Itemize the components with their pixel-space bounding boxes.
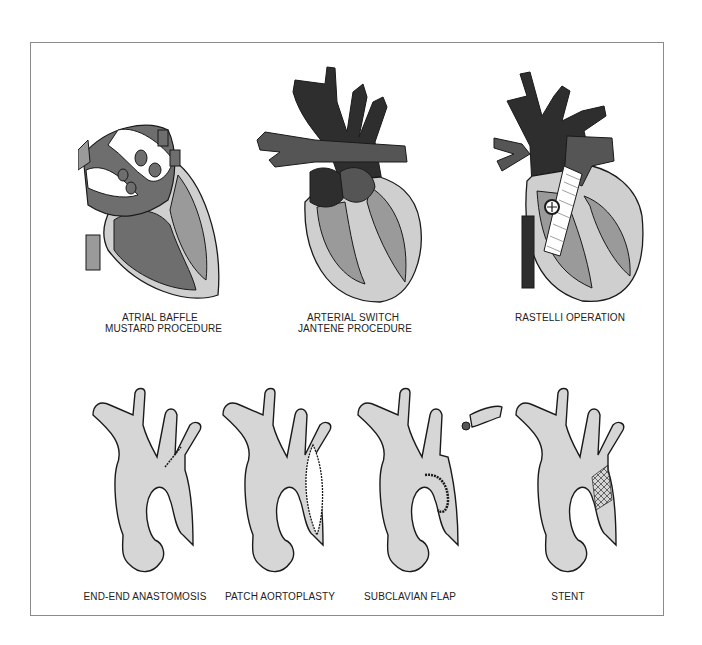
caption-patch-aortoplasty: PATCH AORTOPLASTY bbox=[215, 591, 345, 602]
caption-rastelli: RASTELLI OPERATION bbox=[510, 312, 630, 323]
caption-stent: STENT bbox=[518, 591, 618, 602]
aorta-end-end-anastomosis-illustration bbox=[85, 385, 215, 580]
aorta-stent-illustration bbox=[508, 385, 638, 580]
caption-subclavian-flap: SUBCLAVIAN FLAP bbox=[345, 591, 475, 602]
heart-rastelli-conduit-illustration bbox=[492, 66, 662, 311]
aorta-subclavian-flap-illustration bbox=[350, 385, 510, 580]
heart-atrial-baffle-illustration bbox=[78, 100, 228, 305]
caption-atrial-baffle: ATRIAL BAFFLE MUSTARD PROCEDURE bbox=[105, 312, 215, 334]
caption-end-end-anastomosis: END-END ANASTOMOSIS bbox=[80, 591, 210, 602]
caption-arterial-switch: ARTERIAL SWITCH JANTENE PROCEDURE bbox=[298, 312, 408, 334]
aorta-patch-illustration bbox=[215, 385, 345, 580]
heart-arterial-switch-illustration bbox=[255, 62, 455, 307]
